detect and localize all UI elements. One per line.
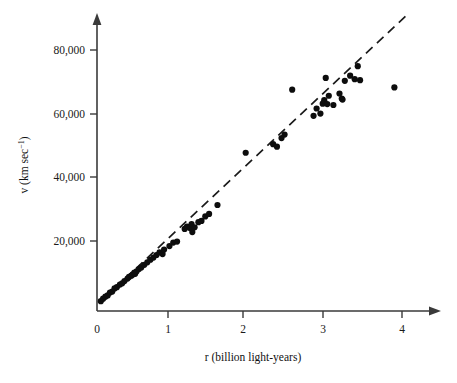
x-ticklabel-3: 3 bbox=[320, 323, 326, 335]
data-point bbox=[357, 77, 363, 83]
data-point bbox=[326, 93, 332, 99]
data-point bbox=[342, 78, 348, 84]
data-point bbox=[324, 101, 330, 107]
data-point bbox=[289, 87, 295, 93]
data-point bbox=[355, 63, 361, 69]
hubble-diagram-figure: 80,000 60,000 40,000 20,000 0 1 2 3 4 r … bbox=[0, 0, 457, 383]
data-point bbox=[310, 113, 316, 119]
y-axis-title-tail: ) bbox=[18, 136, 31, 140]
data-point bbox=[323, 75, 329, 81]
data-point bbox=[274, 144, 280, 150]
data-point bbox=[317, 110, 323, 116]
scatter-plot-svg: 80,000 60,000 40,000 20,000 0 1 2 3 4 r … bbox=[0, 0, 457, 383]
y-ticklabel-60000: 60,000 bbox=[53, 108, 85, 121]
data-point bbox=[161, 246, 167, 252]
x-ticklabel-1: 1 bbox=[165, 323, 171, 335]
y-axis-title-main: v (km sec bbox=[18, 149, 31, 194]
data-point bbox=[352, 76, 358, 82]
plot-background bbox=[0, 0, 457, 383]
x-ticklabel-0: 0 bbox=[94, 323, 100, 335]
data-point bbox=[214, 202, 220, 208]
y-ticklabel-20000: 20,000 bbox=[53, 235, 85, 248]
x-ticklabel-4: 4 bbox=[399, 323, 405, 335]
data-point bbox=[281, 132, 287, 138]
data-point bbox=[243, 150, 249, 156]
y-ticklabel-40000: 40,000 bbox=[53, 171, 85, 184]
x-axis-title: r (billion light-years) bbox=[205, 351, 302, 364]
data-point bbox=[391, 84, 397, 90]
x-ticklabel-2: 2 bbox=[240, 323, 246, 335]
y-ticklabel-80000: 80,000 bbox=[53, 44, 85, 57]
data-point bbox=[206, 211, 212, 217]
data-point bbox=[192, 224, 198, 230]
data-point bbox=[330, 102, 336, 108]
data-point bbox=[174, 239, 180, 245]
data-point bbox=[339, 96, 345, 102]
y-axis-title-exponent: −1 bbox=[17, 140, 26, 149]
data-point bbox=[314, 105, 320, 111]
